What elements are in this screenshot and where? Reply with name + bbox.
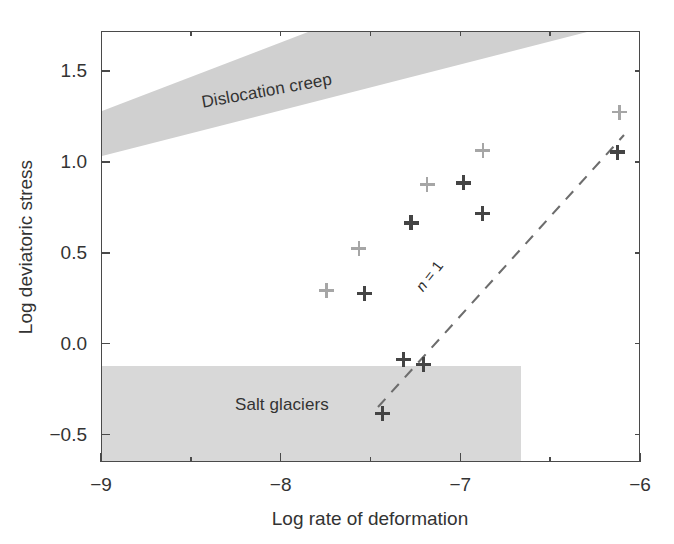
x-tick-label-1: −8 [270, 474, 292, 496]
n-equals-1-label: n = 1 [412, 257, 446, 294]
y-tick-right-0 [635, 434, 640, 435]
y-tick-label-0: −0.5 [0, 424, 87, 446]
x-tick-minor-top-1 [370, 31, 371, 36]
x-tick-minor-top-0 [190, 31, 191, 36]
marker-bar-vertical [358, 241, 361, 256]
x-tick-major-3 [639, 453, 640, 462]
y-tick-right-2 [635, 252, 640, 253]
x-axis-title: Log rate of deformation [272, 508, 468, 530]
marker-bar-vertical [409, 215, 412, 230]
marker-bar-vertical [381, 406, 384, 421]
y-tick-label-3: 1.0 [0, 151, 87, 173]
x-tick-major-2 [460, 453, 461, 462]
x-tick-minor-top-2 [549, 31, 550, 36]
marker-bar-vertical [462, 175, 465, 190]
marker-bar-vertical [426, 177, 429, 192]
y-tick-major-4 [101, 70, 110, 71]
x-tick-label-0: −9 [90, 474, 112, 496]
x-tick-major-1 [280, 453, 281, 462]
x-tick-minor-0 [190, 457, 191, 462]
y-tick-label-4: 1.5 [0, 60, 87, 82]
data-point-dark-markers-6 [416, 357, 431, 372]
y-tick-major-3 [101, 161, 110, 162]
data-point-dark-markers-3 [475, 206, 490, 221]
y-tick-label-1: 0.0 [0, 333, 87, 355]
marker-bar-vertical [325, 283, 328, 298]
marker-bar-vertical [618, 105, 621, 120]
x-tick-top-2 [460, 31, 461, 36]
x-tick-major-0 [100, 453, 101, 462]
marker-bar-vertical [482, 143, 485, 158]
x-tick-top-1 [280, 31, 281, 36]
salt-glaciers-label: Salt glaciers [235, 395, 329, 415]
x-tick-minor-1 [370, 457, 371, 462]
x-tick-label-2: −7 [449, 474, 471, 496]
data-point-dark-markers-7 [375, 406, 390, 421]
data-point-dark-markers-2 [456, 175, 471, 190]
y-tick-major-2 [101, 252, 110, 253]
y-axis-title: Log deviatoric stress [15, 160, 37, 334]
y-tick-label-2: 0.5 [0, 242, 87, 264]
marker-bar-vertical [422, 357, 425, 372]
data-point-dark-markers-0 [357, 286, 372, 301]
x-tick-minor-2 [549, 457, 550, 462]
marker-bar-vertical [616, 145, 619, 160]
marker-bar-vertical [402, 352, 405, 367]
data-point-light-markers-3 [475, 143, 490, 158]
figure-scatter-creep-regimes: Dislocation creep Salt glaciers n = 1 −9… [0, 0, 674, 544]
y-tick-right-3 [635, 161, 640, 162]
data-point-light-markers-2 [420, 177, 435, 192]
dislocation-creep-label: Dislocation creep [200, 70, 334, 113]
x-tick-label-3: −6 [629, 474, 651, 496]
y-tick-major-0 [101, 434, 110, 435]
data-point-light-markers-0 [319, 283, 334, 298]
data-point-dark-markers-5 [396, 352, 411, 367]
plot-area: Dislocation creep Salt glaciers n = 1 [101, 31, 640, 462]
data-point-light-markers-4 [612, 105, 627, 120]
y-tick-right-4 [635, 70, 640, 71]
y-tick-major-1 [101, 343, 110, 344]
y-tick-right-1 [635, 343, 640, 344]
data-point-dark-markers-4 [610, 145, 625, 160]
data-point-dark-markers-1 [404, 215, 419, 230]
data-point-light-markers-1 [351, 241, 366, 256]
marker-bar-vertical [363, 286, 366, 301]
marker-bar-vertical [481, 206, 484, 221]
